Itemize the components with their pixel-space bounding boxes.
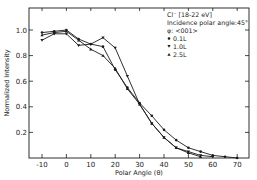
legend-marker-triangle-up-icon <box>167 53 170 56</box>
x-tick-label: 60 <box>208 161 217 169</box>
x-tick-label: 50 <box>184 161 193 169</box>
data-point-circle <box>163 129 166 132</box>
legend-incidence-angle: Incidence polar angle:45° <box>167 19 248 27</box>
data-series <box>40 29 238 160</box>
legend-item-2-5L: 2.5L <box>173 51 187 58</box>
data-point-circle <box>151 114 154 117</box>
legend-marker-circle-icon <box>168 37 171 40</box>
data-point-triangle-down <box>40 39 43 42</box>
x-tick-label: 40 <box>160 161 169 169</box>
data-point-circle <box>175 139 178 142</box>
legend-item-0-1L: 0.1L <box>173 35 187 42</box>
legend-title-ion: Cl⁻ [18-22 eV] <box>167 11 212 18</box>
x-tick-label: 0 <box>64 161 68 169</box>
legend-azimuth: φ: <001> <box>167 27 198 35</box>
x-tick-label: 20 <box>111 161 120 169</box>
y-tick-label: 0.8 <box>16 52 27 60</box>
series-line-0.1L <box>42 30 237 158</box>
data-point-circle <box>224 155 227 158</box>
y-axis-ticks: 0.20.40.60.81.0 <box>16 27 249 137</box>
data-point-circle <box>41 31 44 34</box>
legend: Cl⁻ [18-22 eV] Incidence polar angle:45°… <box>167 11 248 58</box>
chart-canvas: -10010203040506070 0.20.40.60.81.0 Polar… <box>0 0 257 180</box>
x-tick-label: 10 <box>86 161 95 169</box>
series-line-1.0L <box>42 34 213 157</box>
data-point-circle <box>187 146 190 149</box>
x-tick-label: -10 <box>36 161 47 169</box>
legend-marker-triangle-down-icon <box>167 45 170 48</box>
data-point-circle <box>102 45 105 48</box>
legend-item-1-0L: 1.0L <box>173 43 187 50</box>
y-tick-label: 0.4 <box>16 103 28 111</box>
data-point-triangle-down <box>114 47 117 50</box>
y-tick-label: 0.6 <box>16 78 28 86</box>
y-tick-label: 1.0 <box>16 27 27 35</box>
x-axis-label: Polar Angle (θ) <box>115 169 163 177</box>
data-point-triangle-down <box>126 75 129 78</box>
data-point-circle <box>199 150 202 153</box>
y-tick-label: 0.2 <box>16 129 27 137</box>
x-tick-label: 70 <box>233 161 242 169</box>
x-tick-label: 30 <box>135 161 144 169</box>
data-point-circle <box>236 157 239 160</box>
y-axis-label: Normalized Intensity <box>3 49 11 116</box>
